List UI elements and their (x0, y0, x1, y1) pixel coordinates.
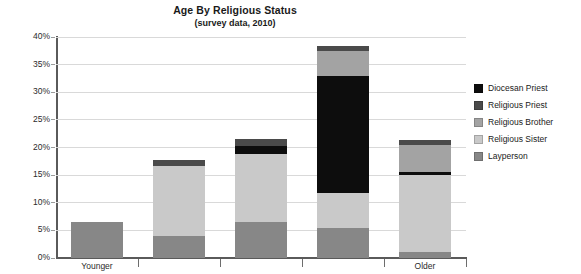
y-axis-tick-mark (51, 258, 55, 259)
bar-segment (399, 172, 451, 175)
page-title: Age By Religious Status (0, 4, 470, 17)
bar-segment (235, 139, 287, 146)
bar-segment (399, 140, 451, 144)
bar-segment (235, 222, 287, 258)
chart-legend: Diocesan PriestReligious PriestReligious… (474, 80, 579, 165)
y-axis-tick-label: 25% (4, 115, 50, 124)
bar-stack (399, 140, 451, 258)
bar-segment (153, 160, 205, 166)
bar-segment (317, 193, 369, 228)
y-axis-tick-mark (51, 119, 55, 120)
y-axis-tick-mark (51, 230, 55, 231)
bar-stack (317, 46, 369, 258)
y-axis-tick-label: 15% (4, 170, 50, 179)
plot-wrapper: 0%5%10%15%20%25%30%35%40%YoungerOlder (56, 37, 466, 258)
gridline (56, 92, 466, 93)
bar-segment (71, 222, 123, 258)
legend-item-label: Diocesan Priest (488, 83, 548, 93)
y-axis-tick-label: 10% (4, 198, 50, 207)
gridline (56, 119, 466, 120)
y-axis-tick-label: 40% (4, 32, 50, 41)
y-axis-tick-label: 0% (4, 253, 50, 262)
y-axis-tick-mark (51, 202, 55, 203)
x-axis-tick-mark (302, 259, 303, 267)
x-axis-tick-mark (384, 259, 385, 267)
bar-stack (71, 222, 123, 258)
y-axis-tick-label: 20% (4, 143, 50, 152)
bar-segment (317, 76, 369, 193)
y-axis-tick-mark (51, 64, 55, 65)
bar-segment (317, 46, 369, 50)
x-axis-tick-label: Younger (62, 261, 132, 271)
x-axis-tick-mark (138, 259, 139, 267)
y-axis-tick-mark (51, 92, 55, 93)
bar-segment (317, 228, 369, 258)
bar-segment (235, 146, 287, 154)
legend-item-label: Religious Priest (488, 100, 547, 110)
y-axis-tick-label: 5% (4, 225, 50, 234)
legend-item[interactable]: Religious Sister (474, 131, 579, 147)
chart-title-block: Age By Religious Status (survey data, 20… (0, 4, 470, 29)
bar-segment (235, 154, 287, 222)
legend-swatch-icon (474, 101, 483, 110)
bar-stack (235, 139, 287, 258)
x-axis-tick-mark (220, 259, 221, 267)
chart-container: Age By Religious Status (survey data, 20… (0, 0, 581, 274)
bar-segment (153, 236, 205, 258)
legend-item[interactable]: Diocesan Priest (474, 80, 579, 96)
bar-stack (153, 160, 205, 258)
x-axis-tick-mark (466, 259, 467, 267)
y-axis-tick-mark (51, 147, 55, 148)
legend-item[interactable]: Religious Brother (474, 114, 579, 130)
legend-item-label: Layperson (488, 151, 528, 161)
bar-segment (153, 166, 205, 236)
y-axis-tick-mark (51, 175, 55, 176)
plot-area: 0%5%10%15%20%25%30%35%40%YoungerOlder (56, 37, 466, 258)
legend-item-label: Religious Brother (488, 117, 553, 127)
x-axis-tick-label: Older (390, 261, 460, 271)
bar-segment (399, 145, 451, 172)
legend-swatch-icon (474, 118, 483, 127)
legend-swatch-icon (474, 135, 483, 144)
legend-swatch-icon (474, 84, 483, 93)
gridline (56, 37, 466, 38)
chart-subtitle: (survey data, 2010) (0, 17, 470, 29)
bar-segment (317, 51, 369, 76)
legend-item[interactable]: Religious Priest (474, 97, 579, 113)
y-axis-tick-mark (51, 37, 55, 38)
y-axis-tick-label: 30% (4, 87, 50, 96)
legend-swatch-icon (474, 152, 483, 161)
bar-segment (399, 252, 451, 258)
bar-segment (399, 175, 451, 252)
legend-item-label: Religious Sister (488, 134, 547, 144)
gridline (56, 64, 466, 65)
legend-item[interactable]: Layperson (474, 148, 579, 164)
y-axis-tick-label: 35% (4, 60, 50, 69)
